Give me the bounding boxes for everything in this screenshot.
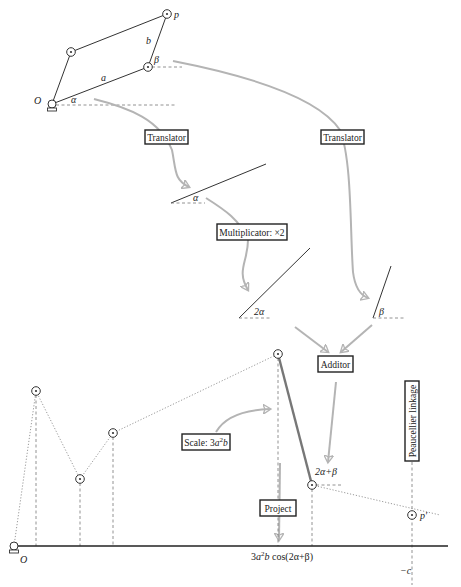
link-left [52, 52, 71, 104]
alpha-label: α [71, 94, 77, 105]
svg-text:Multiplicator: ×2: Multiplicator: ×2 [219, 228, 285, 238]
svg-text:Peaucellier linkage: Peaucellier linkage [408, 385, 418, 458]
joint-p-icon [163, 10, 172, 19]
b-label: b [146, 35, 151, 46]
beta-angle: β [373, 266, 405, 318]
bottom-origin-label: O [20, 554, 27, 565]
p-prime-label: p′ [419, 510, 428, 521]
sum-angle-label: 2α+β [315, 466, 337, 477]
anchor-origin-bottom-icon [10, 542, 19, 553]
arrow-beta-to-additor [341, 325, 372, 352]
link-top [71, 14, 167, 52]
scale-box: Scale: 3a2b [182, 434, 230, 450]
link-a [52, 67, 148, 104]
scaled-bar [278, 354, 312, 485]
x-axis-value-label: 3a2b cos(2α+β) [251, 550, 313, 563]
joint-icon [274, 350, 283, 359]
joint-icon [32, 387, 41, 396]
translator-box-1: Translator [145, 130, 188, 144]
arrow-2alpha-to-additor [295, 327, 328, 352]
joint-icon [109, 429, 118, 438]
joint-beta-icon [144, 63, 153, 72]
two-alpha-angle: 2α [239, 248, 310, 318]
svg-text:Project: Project [265, 504, 292, 514]
projection-lines [36, 358, 412, 585]
joint-icon [67, 48, 76, 57]
kempe-linkage-diagram: O p a b α β α 2α β [0, 0, 461, 587]
arrow-translator-2 [173, 61, 368, 298]
two-alpha-label: 2α [254, 306, 265, 317]
project-box: Project [260, 500, 296, 516]
additor-box: Additor [318, 356, 353, 372]
neg-c-label: −c [400, 565, 412, 576]
top-parallelogram-linkage: O p a b α β [34, 9, 182, 111]
arrow-additor-output [328, 382, 336, 462]
translator-box-2: Translator [321, 130, 364, 144]
dotted-chain [14, 354, 278, 546]
arrow-scale [216, 409, 270, 432]
svg-text:Translator: Translator [323, 133, 363, 143]
peaucellier-box: Peaucellier linkage [405, 381, 419, 461]
svg-text:Additor: Additor [321, 360, 351, 370]
anchor-origin-icon [48, 100, 57, 111]
a-label: a [101, 72, 106, 83]
alpha-copy: α [171, 164, 266, 203]
beta-label: β [153, 54, 159, 65]
origin-label: O [34, 95, 41, 106]
joint-sum-icon [308, 481, 317, 490]
beta-angle-label: β [378, 306, 384, 317]
joint-icon [76, 475, 85, 484]
bottom-linkage: O p′ −c 2α+β 3a2b cos(2α+β) [10, 350, 449, 585]
svg-text:Translator: Translator [147, 133, 187, 143]
multiplicator-box: Multiplicator: ×2 [217, 224, 287, 240]
p-label: p [173, 9, 179, 20]
alpha-copy-label: α [193, 192, 199, 203]
arrow-multiplicator [206, 198, 248, 290]
joint-p-prime-icon [408, 511, 417, 520]
